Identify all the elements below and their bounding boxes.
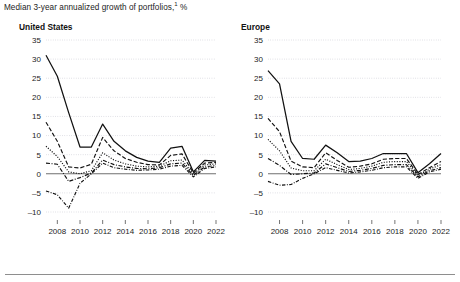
x-axis-tick-label: 2010 — [71, 227, 89, 236]
x-axis-tick-label: 2020 — [184, 227, 202, 236]
exhibit-figure: Median 3-year annualized growth of portf… — [0, 0, 460, 282]
footnote-marker: 1 — [174, 1, 177, 7]
panel-title-united-states: United States — [19, 22, 73, 32]
y-axis-tick-label: 35 — [32, 36, 41, 45]
y-axis-tick-label: –5 — [254, 189, 263, 198]
y-axis-tick-label: 15 — [254, 112, 263, 121]
x-axis-tick-label: 2012 — [317, 227, 335, 236]
y-axis-tick-label: 20 — [254, 93, 263, 102]
x-axis-tick-label: 2016 — [139, 227, 157, 236]
y-axis-tick-label: 10 — [32, 131, 41, 140]
y-axis-tick-label: 25 — [32, 74, 41, 83]
y-axis-tick-label: 10 — [254, 131, 263, 140]
chart-svg-united-states: –10–505101520253035200820102012201420162… — [16, 34, 226, 270]
x-axis-tick-label: 2018 — [386, 227, 404, 236]
y-axis-tick-label: 5 — [37, 151, 42, 160]
y-axis-tick-label: 0 — [37, 170, 42, 179]
chart-svg-europe: –10–505101520253035200820102012201420162… — [238, 34, 453, 270]
bottom-divider — [5, 274, 455, 275]
y-axis-tick-label: 25 — [254, 74, 263, 83]
x-axis-tick-label: 2022 — [432, 227, 450, 236]
y-axis-tick-label: 30 — [32, 55, 41, 64]
x-axis-tick-label: 2022 — [207, 227, 225, 236]
x-axis-tick-label: 2008 — [48, 227, 66, 236]
panel-europe: Europe –10–50510152025303520082010201220… — [238, 20, 453, 270]
x-axis-tick-label: 2008 — [271, 227, 289, 236]
plot-area-europe: –10–505101520253035200820102012201420162… — [238, 34, 453, 270]
exhibit-unit: % — [180, 3, 187, 12]
x-axis-tick-label: 2018 — [162, 227, 180, 236]
series-line-bottom-quartile — [46, 163, 216, 208]
panel-title-europe: Europe — [241, 22, 270, 32]
y-axis-tick-label: 15 — [32, 112, 41, 121]
y-axis-tick-label: –10 — [250, 208, 264, 217]
y-axis-tick-label: –5 — [32, 189, 41, 198]
x-axis-tick-label: 2012 — [94, 227, 112, 236]
y-axis-tick-label: 5 — [259, 151, 264, 160]
y-axis-tick-label: 20 — [32, 93, 41, 102]
series-line-top-quartile — [268, 71, 441, 173]
y-axis-tick-label: 30 — [254, 55, 263, 64]
y-axis-tick-label: 35 — [254, 36, 263, 45]
plot-area-united-states: –10–505101520253035200820102012201420162… — [16, 34, 226, 270]
exhibit-title-text: Median 3-year annualized growth of portf… — [4, 3, 174, 12]
exhibit-title: Median 3-year annualized growth of portf… — [4, 3, 187, 12]
panel-united-states: United States –10–5051015202530352008201… — [16, 20, 226, 270]
x-axis-tick-label: 2010 — [294, 227, 312, 236]
y-axis-tick-label: 0 — [259, 170, 264, 179]
x-axis-tick-label: 2016 — [363, 227, 381, 236]
x-axis-tick-label: 2014 — [116, 227, 134, 236]
x-axis-tick-label: 2020 — [409, 227, 427, 236]
series-line-lower-middle — [46, 160, 216, 181]
y-axis-tick-label: –10 — [28, 208, 42, 217]
x-axis-tick-label: 2014 — [340, 227, 358, 236]
